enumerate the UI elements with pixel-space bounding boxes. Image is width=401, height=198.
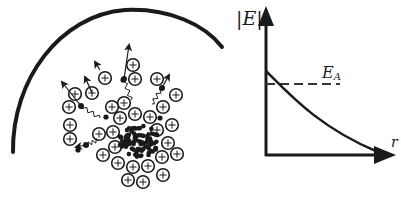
electron-dot — [148, 142, 153, 147]
positive-ion — [118, 97, 131, 110]
positive-ion — [142, 160, 155, 173]
threshold-label-main: E — [321, 63, 334, 82]
electron-dot — [151, 149, 156, 154]
positive-ion — [151, 73, 164, 86]
electron-dot — [141, 141, 146, 146]
electron-dot — [135, 148, 140, 153]
electron-dot — [125, 142, 130, 147]
electron-dot — [129, 129, 134, 134]
electron-dot — [152, 141, 157, 146]
escaping-electron — [121, 45, 132, 100]
y-axis-label: |E| — [236, 7, 263, 30]
x-axis-label: r — [391, 134, 399, 150]
electron-dot — [135, 154, 140, 159]
electron-dot — [125, 128, 130, 133]
positive-ion — [106, 101, 119, 114]
electron-dot — [139, 133, 144, 138]
electron-dot — [127, 152, 132, 157]
positive-ion — [112, 157, 125, 170]
electron-dot — [141, 124, 146, 129]
positive-ion — [144, 111, 157, 124]
positive-ion — [99, 72, 112, 85]
threshold-label-sub: A — [333, 71, 341, 82]
field-graph: |E| r EA — [236, 6, 399, 164]
electron-dot — [103, 114, 108, 119]
electron-dot — [157, 115, 162, 120]
electron-dot — [141, 147, 146, 152]
positive-ion — [122, 174, 135, 187]
electron-dot — [150, 131, 155, 136]
positive-ion — [137, 176, 150, 189]
electron-dot — [118, 134, 123, 139]
escaping-electron — [95, 62, 100, 70]
positive-ion — [171, 148, 184, 161]
electron-dot — [133, 126, 138, 131]
positive-ion — [162, 137, 175, 150]
escaping-electron — [76, 139, 98, 148]
positive-ion — [93, 128, 106, 141]
positive-ion — [157, 169, 170, 182]
positive-ion — [127, 59, 140, 72]
positive-ion — [129, 73, 142, 86]
positive-ion — [166, 119, 179, 132]
electron-dot — [133, 135, 138, 140]
positive-ion — [129, 108, 142, 121]
positive-ion — [64, 119, 77, 132]
electron-dot — [149, 127, 154, 132]
positive-ion — [114, 112, 127, 125]
positive-ion — [127, 161, 140, 174]
electron-dot — [118, 143, 123, 148]
electron-dot — [131, 142, 136, 147]
diagram-canvas: |E| r EA — [0, 0, 401, 198]
electron-dot — [120, 139, 125, 144]
positive-ion — [156, 151, 169, 164]
positive-ion — [170, 89, 183, 102]
electron-dot — [75, 147, 80, 152]
positive-ion — [107, 126, 120, 139]
electron-dot — [137, 139, 142, 144]
positive-ion — [64, 133, 77, 146]
electron-dot — [146, 132, 151, 137]
positive-ion — [157, 101, 170, 114]
threshold-label: EA — [321, 63, 341, 82]
electron-dot — [139, 153, 144, 158]
positive-ion — [97, 149, 110, 162]
positive-ion — [63, 101, 76, 114]
electron-dot — [125, 133, 130, 138]
electron-dot — [124, 137, 129, 142]
